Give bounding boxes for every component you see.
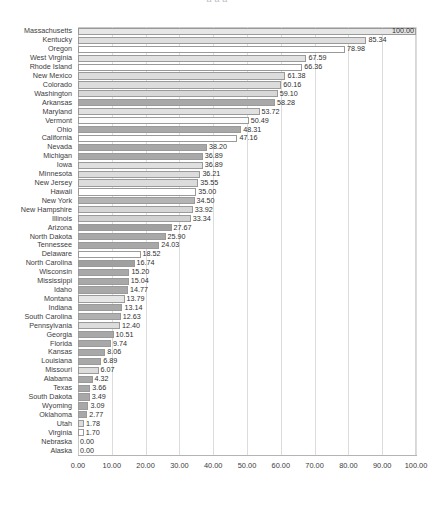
bar[interactable] [78, 99, 275, 106]
bar[interactable] [78, 393, 90, 400]
bar-row[interactable]: 15.04 [78, 278, 416, 285]
plot-area: 100.0085.3478.9867.5966.3661.3860.1659.1… [78, 27, 416, 455]
bar-row[interactable]: 3.49 [78, 393, 416, 400]
bar-row[interactable]: 61.38 [78, 72, 416, 79]
category-label: Nevada [47, 144, 72, 151]
bar[interactable] [78, 108, 260, 115]
bar[interactable] [78, 331, 114, 338]
bar-value-label: 33.92 [193, 206, 213, 213]
bar-row[interactable]: 36.21 [78, 171, 416, 178]
category-label: Texas [53, 385, 72, 392]
bar-row[interactable]: 59.10 [78, 90, 416, 97]
bar-row[interactable]: 6.89 [78, 358, 416, 365]
x-tick-label: 70.00 [305, 462, 324, 469]
bar[interactable] [78, 197, 195, 204]
bar[interactable] [78, 358, 101, 365]
bar[interactable] [78, 286, 128, 293]
bar-row[interactable]: 38.20 [78, 144, 416, 151]
bar-row[interactable]: 67.59 [78, 55, 416, 62]
bar[interactable] [78, 64, 302, 71]
bar[interactable] [78, 233, 166, 240]
category-label: Delaware [42, 251, 72, 258]
bar[interactable] [78, 402, 88, 409]
bar-row[interactable]: 15.20 [78, 269, 416, 276]
bar[interactable] [78, 313, 121, 320]
bar[interactable] [78, 295, 125, 302]
bar-row[interactable]: 35.55 [78, 179, 416, 186]
bar[interactable] [78, 135, 237, 142]
bar-row[interactable]: 53.72 [78, 108, 416, 115]
bar-row[interactable]: 14.77 [78, 286, 416, 293]
bar-row[interactable]: 66.36 [78, 64, 416, 71]
bar-row[interactable]: 58.28 [78, 99, 416, 106]
bar[interactable] [78, 90, 278, 97]
bar[interactable] [78, 162, 203, 169]
bar-row[interactable]: 16.74 [78, 260, 416, 267]
bar[interactable] [78, 28, 416, 35]
bar[interactable] [78, 349, 105, 356]
bar[interactable] [78, 215, 191, 222]
bar[interactable] [78, 224, 172, 231]
bar[interactable] [78, 153, 203, 160]
bar-row[interactable]: 25.90 [78, 233, 416, 240]
bar[interactable] [78, 260, 135, 267]
bar-row[interactable]: 12.63 [78, 313, 416, 320]
bar[interactable] [78, 385, 90, 392]
bar-row[interactable]: 2.77 [78, 411, 416, 418]
bar[interactable] [78, 126, 241, 133]
bar[interactable] [78, 251, 141, 258]
bar-row[interactable]: 9.74 [78, 340, 416, 347]
bar-row[interactable]: 85.34 [78, 37, 416, 44]
bar-value-label: 1.70 [84, 429, 100, 436]
bar-row[interactable]: 10.51 [78, 331, 416, 338]
bar-row[interactable]: 36.89 [78, 162, 416, 169]
bar[interactable] [78, 242, 159, 249]
bar-row[interactable]: 27.67 [78, 224, 416, 231]
bar[interactable] [78, 188, 196, 195]
bar[interactable] [78, 376, 93, 383]
bar-row[interactable]: 18.52 [78, 251, 416, 258]
bar-row[interactable]: 1.78 [78, 420, 416, 427]
bar-row[interactable]: 60.16 [78, 81, 416, 88]
bar[interactable] [78, 171, 200, 178]
bar-row[interactable]: 33.92 [78, 206, 416, 213]
bar[interactable] [78, 55, 306, 62]
bar[interactable] [78, 367, 99, 374]
bar-row[interactable]: 47.16 [78, 135, 416, 142]
bar-row[interactable]: 36.89 [78, 153, 416, 160]
bar-row[interactable]: 6.07 [78, 367, 416, 374]
bar-row[interactable]: 0.00 [78, 438, 416, 445]
bar-row[interactable]: 13.79 [78, 295, 416, 302]
bar[interactable] [78, 206, 193, 213]
bar-row[interactable]: 35.00 [78, 188, 416, 195]
bar-row[interactable]: 12.40 [78, 322, 416, 329]
bar[interactable] [78, 269, 129, 276]
bar[interactable] [78, 72, 285, 79]
bar-row[interactable]: 8.06 [78, 349, 416, 356]
bar[interactable] [78, 411, 87, 418]
bar-value-label: 4.32 [93, 376, 109, 383]
bar-row[interactable]: 50.49 [78, 117, 416, 124]
bar[interactable] [78, 46, 345, 53]
bar-row[interactable]: 4.32 [78, 376, 416, 383]
bar-row[interactable]: 13.14 [78, 304, 416, 311]
bar[interactable] [78, 144, 207, 151]
bar[interactable] [78, 304, 122, 311]
bar[interactable] [78, 278, 129, 285]
bar[interactable] [78, 179, 198, 186]
bar[interactable] [78, 81, 281, 88]
bar[interactable] [78, 340, 111, 347]
bar-row[interactable]: 3.09 [78, 402, 416, 409]
bar-row[interactable]: 33.34 [78, 215, 416, 222]
bar-row[interactable]: 24.03 [78, 242, 416, 249]
bar-row[interactable]: 100.00 [78, 28, 416, 35]
bar-row[interactable]: 34.50 [78, 197, 416, 204]
bar[interactable] [78, 117, 249, 124]
bar[interactable] [78, 37, 366, 44]
bar[interactable] [78, 322, 120, 329]
bar-row[interactable]: 0.00 [78, 447, 416, 454]
bar-row[interactable]: 78.98 [78, 46, 416, 53]
bar-row[interactable]: 1.70 [78, 429, 416, 436]
bar-row[interactable]: 48.31 [78, 126, 416, 133]
bar-row[interactable]: 3.66 [78, 385, 416, 392]
